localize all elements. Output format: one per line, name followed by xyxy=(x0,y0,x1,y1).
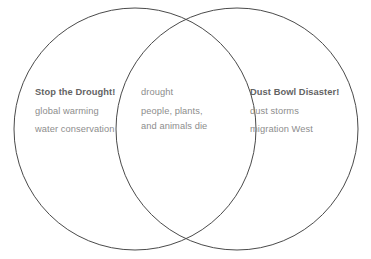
right-circle-text-group: Dust Bowl Disaster! dust storms migratio… xyxy=(250,83,355,139)
left-circle-heading: Stop the Drought! xyxy=(35,83,135,102)
overlap-text-group: drought people, plants, and animals die xyxy=(141,83,237,133)
right-circle-item-1: dust storms xyxy=(250,102,355,121)
right-circle-item-2: migration West xyxy=(250,120,355,139)
left-circle-item-1: global warming xyxy=(35,102,135,121)
left-circle-item-2: water conservation xyxy=(35,120,135,139)
overlap-item-2: and animals die xyxy=(141,120,237,133)
overlap-item-1: people, plants, xyxy=(141,102,237,121)
right-circle-heading: Dust Bowl Disaster! xyxy=(250,83,355,102)
venn-diagram: Stop the Drought! global warming water c… xyxy=(0,0,371,259)
overlap-heading: drought xyxy=(141,83,237,102)
left-circle-text-group: Stop the Drought! global warming water c… xyxy=(35,83,135,139)
